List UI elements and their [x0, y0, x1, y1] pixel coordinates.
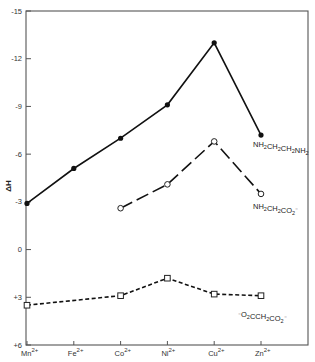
y-tick-label: +3	[13, 293, 22, 302]
y-tick-label: -15	[11, 7, 22, 16]
series-label: NH2CH2CH2NH2	[253, 140, 309, 156]
x-category-label: Cu2+	[208, 347, 225, 358]
data-point	[165, 102, 170, 107]
series-layer	[24, 40, 264, 308]
data-point	[24, 201, 29, 206]
plot-frame	[26, 11, 308, 345]
x-category-label: Co2+	[115, 347, 132, 358]
series-labels: NH2CH2CH2NH2NH2CH2CO2⁻⁻O2CCH2CO2⁻	[238, 140, 309, 324]
data-point	[118, 136, 123, 141]
data-point	[118, 293, 124, 299]
y-tick-label: -12	[11, 54, 22, 63]
x-axis: Mn2+Fe2+Co2+Ni2+Cu2+Zn2+	[21, 341, 271, 358]
y-tick-label: 0	[18, 245, 22, 254]
x-category-label: Zn2+	[255, 347, 271, 358]
series-label: NH2CH2CO2⁻	[253, 202, 298, 216]
data-point	[211, 139, 217, 145]
series-label: ⁻O2CCH2CO2⁻	[238, 310, 287, 324]
x-category-label: Fe2+	[68, 347, 84, 358]
y-axis: -15-12-9-6-30+3+6	[11, 7, 31, 350]
chart: -15-12-9-6-30+3+6 Mn2+Fe2+Co2+Ni2+Cu2+Zn…	[0, 0, 315, 362]
y-axis-label: ΔH	[4, 180, 13, 192]
data-point	[118, 205, 124, 211]
series-1	[118, 139, 264, 211]
y-tick-label: -9	[15, 102, 22, 111]
data-point	[211, 291, 217, 297]
series-0	[24, 40, 263, 206]
data-point	[212, 40, 217, 45]
data-point	[24, 302, 30, 308]
y-tick-label: -3	[15, 197, 22, 206]
data-point	[71, 166, 76, 171]
data-point	[258, 293, 264, 299]
data-point	[165, 182, 171, 188]
x-category-label: Mn2+	[21, 347, 39, 358]
data-point	[258, 191, 264, 197]
x-category-label: Ni2+	[161, 347, 175, 358]
y-tick-label: -6	[15, 150, 22, 159]
data-point	[165, 275, 171, 281]
data-point	[258, 132, 263, 137]
series-2	[24, 275, 264, 308]
